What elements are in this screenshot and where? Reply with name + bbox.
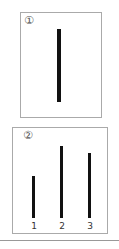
clipped-top-text bbox=[35, 0, 105, 2]
panel-2-bar-2 bbox=[60, 146, 63, 218]
panel-2-label-3: 3 bbox=[85, 222, 95, 231]
panel-2-bar-3 bbox=[88, 153, 91, 218]
panel-2: ② 1 2 3 bbox=[12, 127, 108, 234]
panel-2-number: ② bbox=[23, 130, 33, 141]
panel-2-bar-1 bbox=[32, 176, 35, 218]
panel-1: ① bbox=[20, 12, 102, 118]
panel-2-label-2: 2 bbox=[57, 222, 67, 231]
panel-1-number: ① bbox=[24, 15, 34, 26]
panel-1-bar bbox=[57, 29, 61, 102]
horizontal-divider bbox=[0, 240, 119, 241]
panel-2-label-1: 1 bbox=[29, 222, 39, 231]
